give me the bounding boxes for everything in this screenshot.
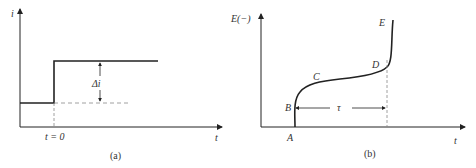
point-D: D	[371, 59, 380, 70]
panel-a: i t Δi t = 0 (a)	[11, 8, 222, 162]
y-axis-label: i	[11, 8, 14, 19]
delta-label: Δi	[91, 78, 101, 89]
figure: i t Δi t = 0 (a) E(−) t τ A B C D E (b)	[0, 0, 476, 168]
potential-curve	[295, 20, 393, 127]
tau-label: τ	[337, 102, 341, 113]
x-axis-label: t	[215, 132, 218, 143]
point-C: C	[313, 71, 320, 82]
panel-b: E(−) t τ A B C D E (b)	[230, 13, 465, 160]
caption-b: (b)	[364, 148, 376, 160]
caption-a: (a)	[110, 150, 121, 162]
point-A: A	[286, 132, 294, 143]
point-E: E	[378, 17, 385, 28]
point-B: B	[285, 102, 291, 113]
step-current	[20, 61, 158, 103]
y-axis-label: E(−)	[230, 13, 251, 25]
x-axis-label: t	[454, 135, 457, 146]
tick-label-t0: t = 0	[45, 131, 65, 142]
